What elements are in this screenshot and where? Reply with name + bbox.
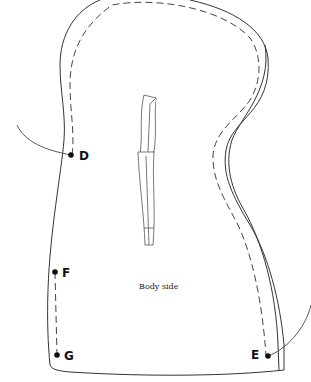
point-e-dot: [265, 353, 271, 359]
point-f-dot: [52, 269, 58, 275]
outer-cut-line: [48, 0, 284, 375]
point-e-label: E: [251, 348, 259, 362]
zipper-opening: [138, 95, 156, 245]
piece-label: Body side: [139, 282, 179, 291]
point-d-dot: [68, 152, 74, 158]
point-g-dot: [54, 352, 60, 358]
point-f-label: F: [62, 266, 70, 280]
point-d-label: D: [79, 149, 89, 163]
seam-allowance-line: [70, 2, 266, 355]
pattern-diagram: D F G E Body side: [0, 0, 311, 382]
point-g-label: G: [64, 349, 74, 363]
topstitch-line: [229, 45, 279, 370]
seam-f-g: [55, 272, 57, 355]
leader-line-e: [268, 305, 311, 356]
